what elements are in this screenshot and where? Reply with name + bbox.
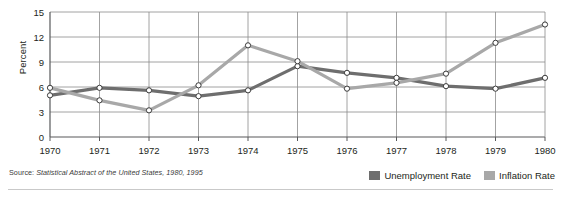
x-tick-1977: 1977 [373, 145, 421, 156]
x-tick-1979: 1979 [472, 145, 520, 156]
legend-label-inflation: Inflation Rate [499, 170, 555, 181]
chart-plot-area: Percent 15 12 9 6 3 0 [0, 0, 561, 163]
x-tick-1973: 1973 [175, 145, 223, 156]
legend-item-inflation[interactable]: Inflation Rate [484, 170, 555, 181]
x-tick-1978: 1978 [422, 145, 470, 156]
data-point [196, 83, 201, 88]
data-point [542, 22, 547, 27]
source-note: Source: Statistical Abstract of the Unit… [9, 168, 203, 177]
data-point [344, 70, 349, 75]
data-point [493, 40, 498, 45]
bottom-divider [8, 189, 553, 190]
data-point [196, 94, 201, 99]
y-tick-12: 12 [22, 32, 44, 43]
legend-swatch-unemployment [369, 171, 380, 180]
data-point [97, 98, 102, 103]
x-tick-1975: 1975 [274, 145, 322, 156]
data-point [542, 75, 547, 80]
chart-legend: Unemployment Rate Inflation Rate [369, 170, 555, 181]
data-point [146, 108, 151, 113]
legend-swatch-inflation [484, 171, 495, 180]
data-point [47, 93, 52, 98]
legend-item-unemployment[interactable]: Unemployment Rate [369, 170, 471, 181]
x-tick-1974: 1974 [224, 145, 272, 156]
data-point [295, 64, 300, 69]
y-tick-6: 6 [22, 82, 44, 93]
data-point [394, 75, 399, 80]
data-point [443, 71, 448, 76]
legend-label-unemployment: Unemployment Rate [384, 170, 471, 181]
y-tick-0: 0 [22, 132, 44, 143]
data-point [245, 88, 250, 93]
data-point [295, 59, 300, 64]
data-point [443, 84, 448, 89]
data-point [245, 43, 250, 48]
y-tick-3: 3 [22, 107, 44, 118]
x-tick-1976: 1976 [323, 145, 371, 156]
y-tick-9: 9 [22, 57, 44, 68]
data-point [493, 86, 498, 91]
data-point [97, 85, 102, 90]
x-tick-marks [50, 137, 545, 141]
y-tick-15: 15 [22, 7, 44, 18]
chart-figure: Percent 15 12 9 6 3 0 [0, 0, 561, 199]
x-tick-1972: 1972 [125, 145, 173, 156]
data-point [47, 85, 52, 90]
x-tick-1980: 1980 [521, 145, 561, 156]
data-point [344, 86, 349, 91]
source-title: Statistical Abstract of the United State… [36, 168, 203, 177]
data-point [146, 88, 151, 93]
chart-svg [0, 0, 561, 163]
data-point [394, 80, 399, 85]
source-prefix: Source: [9, 168, 36, 177]
x-tick-1971: 1971 [76, 145, 124, 156]
x-tick-1970: 1970 [26, 145, 74, 156]
